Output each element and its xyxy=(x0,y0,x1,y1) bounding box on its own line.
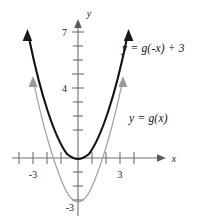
curve-base-left-arrowhead-icon xyxy=(29,76,38,87)
x-axis-arrowhead-icon xyxy=(157,154,166,162)
y-tick-label-4: 4 xyxy=(62,83,67,94)
y-tick-label-7: 7 xyxy=(62,27,67,38)
curve-transformed-left-arrowhead-icon xyxy=(23,29,33,41)
curve-base-right-arrowhead-icon xyxy=(118,76,127,87)
x-axis-label: x xyxy=(171,153,177,164)
y-axis-group xyxy=(72,19,84,216)
graph-canvas: y x 7 4 -3 -3 3 xyxy=(0,0,203,222)
y-tick-label-neg-3: -3 xyxy=(66,202,74,213)
curve-transformed-right-arrowhead-icon xyxy=(124,29,134,41)
graph-figure: y x 7 4 -3 -3 3 y = g(-x) + 3 y = g(x) xyxy=(0,0,203,222)
curve-label-base: y = g(x) xyxy=(129,112,168,124)
curve-label-transformed: y = g(-x) + 3 xyxy=(122,42,185,54)
x-tick-label-3: 3 xyxy=(118,169,123,180)
y-axis-label: y xyxy=(86,8,92,19)
y-axis-arrowhead-icon xyxy=(74,19,82,28)
x-tick-label-neg-3: -3 xyxy=(29,169,37,180)
